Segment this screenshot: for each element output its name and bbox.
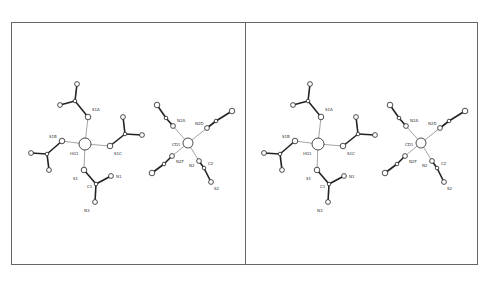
atom-label-s2: S2 — [214, 186, 220, 191]
atom-label-n2a: N2A — [410, 118, 419, 123]
atom-label-n2f: N2F — [409, 159, 418, 164]
atom-label-c1: C1 — [320, 184, 326, 189]
atom-label-hg1: HG1 — [70, 151, 79, 156]
atom-label-s1b: S1B — [49, 134, 57, 139]
atom-label-n2: N2 — [422, 163, 428, 168]
atom-label-s2: S2 — [447, 186, 453, 191]
atom-label-s1a: S1A — [325, 107, 333, 112]
atom-label-s1b: S1B — [282, 134, 290, 139]
atom-label-n3: N3 — [317, 208, 323, 213]
atom-label-hg1: HG1 — [303, 151, 312, 156]
atom-label-s1c: S1C — [114, 151, 122, 156]
atom-label-s1: S1 — [306, 176, 312, 181]
atom-label-n2: N2 — [189, 163, 195, 168]
atom-label-n2d: N2D — [195, 121, 204, 126]
atom-label-n2a: N2A — [177, 118, 186, 123]
atom-label-c1: C1 — [87, 184, 93, 189]
atom-label-s1a: S1A — [92, 107, 100, 112]
atom-label-s1: S1 — [73, 176, 79, 181]
right-stereo-view: S1A S1B HG1 S1C S1 C1 N1 N3 N2A N2D CD1 … — [262, 82, 468, 213]
atom-label-n1: N1 — [116, 174, 122, 179]
atom-label-s1c: S1C — [347, 151, 355, 156]
atom-label-n3: N3 — [84, 208, 90, 213]
atom-label-n2d: N2D — [428, 121, 437, 126]
atom-label-c2: C2 — [441, 161, 447, 166]
atom-label-n1: N1 — [349, 174, 355, 179]
atom-label-c2: C2 — [208, 161, 214, 166]
atom-label-n2f: N2F — [176, 159, 185, 164]
atom-label-cd1: CD1 — [172, 142, 181, 147]
stereo-diagram: S1A S1B HG1 S1C S1 C1 N1 N3 N2A N2D CD1 … — [0, 0, 491, 282]
left-stereo-view: S1A S1B HG1 S1C S1 C1 N1 N3 N2A N2D CD1 … — [29, 82, 235, 213]
atom-label-cd1: CD1 — [405, 142, 414, 147]
